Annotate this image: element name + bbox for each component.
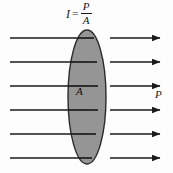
formula-denominator-area: A — [82, 14, 91, 26]
intensity-diagram-figure: I = P A A P — [0, 0, 173, 173]
formula-equals-sign: = — [72, 8, 80, 19]
formula-numerator-power: P — [82, 1, 91, 13]
area-label: A — [76, 86, 83, 97]
formula-fraction: P A — [81, 1, 92, 26]
intensity-formula: I = P A — [66, 1, 92, 26]
power-label: P — [155, 89, 162, 100]
area-ellipse — [68, 30, 106, 164]
outgoing-rays-group — [110, 38, 160, 158]
